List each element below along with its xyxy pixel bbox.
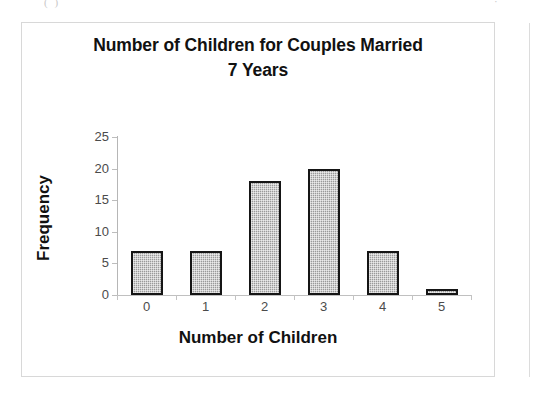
chart-container: Number of Children for Couples Married 7… — [21, 22, 495, 377]
y-axis-title: Frequency — [34, 138, 54, 298]
scan-artifact-right: · — [494, 0, 500, 7]
x-axis-tick — [471, 295, 472, 300]
bar-series — [117, 137, 471, 295]
chart-title: Number of Children for Couples Married 7… — [22, 33, 494, 83]
x-axis-tick-label: 0 — [143, 299, 150, 314]
x-axis-tick-label: 2 — [261, 299, 268, 314]
bar — [308, 169, 340, 295]
x-axis-title: Number of Children — [22, 328, 494, 348]
x-axis-tick-label: 4 — [379, 299, 386, 314]
bar — [249, 181, 281, 295]
bar — [426, 289, 458, 295]
x-axis-tick-label: 5 — [438, 299, 445, 314]
chart-title-line-2: 7 Years — [22, 58, 494, 83]
y-axis-tick-label: 25 — [95, 129, 109, 144]
y-axis-tick-label: 20 — [95, 161, 109, 176]
x-axis-tick-label: 1 — [202, 299, 209, 314]
y-axis-tick-label: 15 — [95, 192, 109, 207]
x-axis-tick-label: 3 — [320, 299, 327, 314]
plot-area: 0510152025 — [117, 137, 471, 295]
bar — [190, 251, 222, 295]
y-axis-tick-label: 0 — [102, 287, 109, 302]
scan-artifact-left: ( ) — [44, 0, 60, 8]
x-axis-tick-labels: 012345 — [117, 299, 471, 321]
bar — [131, 251, 163, 295]
chart-title-line-1: Number of Children for Couples Married — [93, 35, 423, 55]
bar — [367, 251, 399, 295]
y-axis-tick-label: 10 — [95, 224, 109, 239]
y-axis-tick-label: 5 — [102, 256, 109, 271]
adjacent-page-edge — [529, 23, 559, 377]
